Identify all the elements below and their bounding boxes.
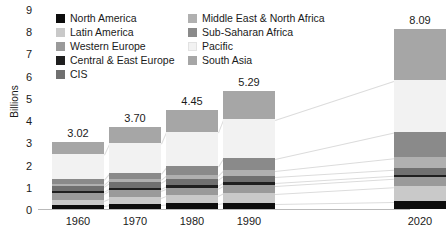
bar-segment	[109, 197, 161, 203]
y-axis-tick-9: 9	[14, 5, 32, 16]
bar-segment	[394, 177, 446, 186]
legend-item-label: Latin America	[70, 27, 134, 38]
legend-swatch-icon	[56, 14, 65, 23]
legend-item-south-asia[interactable]: South Asia	[188, 53, 356, 67]
legend-item-middle-east-north-africa[interactable]: Middle East & North Africa	[188, 11, 356, 25]
connector-line	[275, 176, 394, 184]
bar-segment	[52, 186, 104, 191]
y-axis-tick-5: 5	[14, 94, 32, 105]
bar-segment	[394, 157, 446, 168]
bar-segment	[223, 176, 275, 182]
bar-total-label: 3.70	[109, 113, 161, 124]
y-axis-tick-2: 2	[14, 161, 32, 172]
bar-segment	[223, 203, 275, 209]
legend-item-label: South Asia	[202, 55, 252, 66]
bar-1970[interactable]	[109, 127, 161, 209]
legend-item-label: Middle East & North Africa	[202, 13, 325, 24]
y-axis-tick-8: 8	[14, 27, 32, 38]
connector-line	[275, 133, 394, 160]
bar-total-label: 8.09	[394, 15, 446, 26]
bar-segment	[166, 166, 218, 174]
bar-segment	[52, 142, 104, 154]
bar-segment	[52, 184, 104, 186]
bar-segment	[394, 168, 446, 174]
bar-segment	[166, 203, 218, 209]
x-axis-line	[38, 209, 410, 210]
x-axis-tick-1970: 1970	[109, 216, 161, 227]
bar-segment	[52, 191, 104, 193]
legend-item-label: CIS	[70, 69, 88, 80]
bar-segment	[166, 132, 218, 166]
legend-swatch-icon	[188, 14, 197, 23]
bar-segment	[394, 175, 446, 178]
legend-item-pacific[interactable]: Pacific	[188, 39, 356, 53]
bar-segment	[109, 127, 161, 144]
legend-item-label: Central & East Europe	[70, 55, 174, 66]
bar-segment	[166, 195, 218, 203]
legend-item-north-america[interactable]: North America	[56, 11, 184, 25]
x-axis-tick-1980: 1980	[166, 216, 218, 227]
bar-segment	[166, 175, 218, 179]
y-axis-tick-4: 4	[14, 116, 32, 127]
bar-segment	[109, 182, 161, 187]
bar-segment	[109, 204, 161, 209]
y-axis-tick-1: 1	[14, 183, 32, 194]
bar-segment	[394, 201, 446, 209]
connector-line	[275, 202, 394, 205]
legend-swatch-icon	[56, 42, 65, 51]
legend-swatch-icon	[188, 42, 197, 51]
bar-segment	[223, 185, 275, 193]
y-axis-tick-3: 3	[14, 138, 32, 149]
bar-total-label: 4.45	[166, 96, 218, 107]
connector-line	[275, 187, 394, 195]
bar-segment	[166, 110, 218, 132]
bar-segment	[166, 188, 218, 196]
bar-segment	[223, 91, 275, 119]
y-axis-tick-7: 7	[14, 49, 32, 60]
bar-segment	[223, 170, 275, 176]
connector-line	[275, 169, 394, 177]
x-axis-tick-1990: 1990	[223, 216, 275, 227]
bar-segment	[166, 185, 218, 187]
bar-segment	[109, 190, 161, 198]
bar-segment	[52, 205, 104, 209]
bar-segment	[109, 143, 161, 172]
bar-1990[interactable]	[223, 91, 275, 209]
legend: North AmericaLatin AmericaWestern Europe…	[56, 11, 356, 81]
connector-line	[275, 178, 394, 186]
bar-segment	[394, 132, 446, 157]
legend-swatch-icon	[56, 56, 65, 65]
bar-segment	[52, 154, 104, 178]
bar-segment	[52, 200, 104, 205]
legend-item-label: Western Europe	[70, 41, 146, 52]
bar-segment	[223, 158, 275, 169]
legend-item-western-europe[interactable]: Western Europe	[56, 39, 184, 53]
legend-swatch-icon	[56, 70, 65, 79]
bar-segment	[109, 179, 161, 182]
legend-item-sub-saharan-africa[interactable]: Sub-Saharan Africa	[188, 25, 356, 39]
legend-item-cis[interactable]: CIS	[56, 67, 184, 81]
connector-line	[275, 158, 394, 172]
bar-segment	[52, 193, 104, 200]
legend-swatch-icon	[188, 28, 197, 37]
y-axis-tick-0: 0	[14, 205, 32, 216]
legend-item-label: North America	[70, 13, 137, 24]
legend-item-label: Sub-Saharan Africa	[202, 27, 293, 38]
x-axis-tick-2020: 2020	[394, 216, 446, 227]
legend-item-latin-america[interactable]: Latin America	[56, 25, 184, 39]
bar-segment	[394, 80, 446, 132]
bar-segment	[394, 186, 446, 200]
connector-line	[275, 81, 394, 121]
bar-1960[interactable]	[52, 142, 104, 209]
y-axis-tick-6: 6	[14, 72, 32, 83]
bar-segment	[223, 182, 275, 185]
x-axis-tick-1960: 1960	[52, 216, 104, 227]
bar-segment	[109, 173, 161, 179]
bar-2020[interactable]	[394, 29, 446, 209]
legend-item-central-east-europe[interactable]: Central & East Europe	[56, 53, 184, 67]
bar-1980[interactable]	[166, 110, 218, 209]
bar-segment	[394, 29, 446, 80]
bar-segment	[109, 188, 161, 190]
bar-segment	[52, 179, 104, 184]
